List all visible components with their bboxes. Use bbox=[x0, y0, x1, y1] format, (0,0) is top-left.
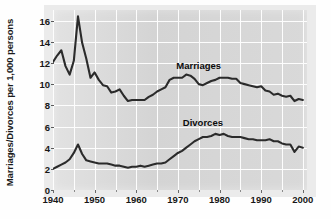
series-line-divorces bbox=[53, 134, 303, 169]
y-tick-mark bbox=[51, 148, 54, 149]
plot-area: MarriagesDivorces bbox=[53, 10, 307, 190]
series-line-marriages bbox=[53, 16, 303, 101]
x-tick-label: 2000 bbox=[283, 194, 323, 205]
x-tick-mark-minor bbox=[157, 190, 158, 192]
x-tick-mark bbox=[178, 190, 179, 193]
y-tick-label: 16 bbox=[30, 17, 50, 26]
x-tick-mark bbox=[303, 190, 304, 193]
y-tick-label: 10 bbox=[30, 80, 50, 89]
x-tick-mark bbox=[53, 190, 54, 193]
y-axis-title: Marriages/Divorces per 1,000 persons bbox=[2, 0, 18, 212]
x-tick-mark-minor bbox=[282, 190, 283, 192]
x-tick-mark bbox=[95, 190, 96, 193]
y-tick-mark bbox=[51, 42, 54, 43]
x-tick-mark-minor bbox=[74, 190, 75, 192]
y-tick-label: 6 bbox=[30, 123, 50, 132]
x-axis-tick-labels: 1940195019601970198019902000 bbox=[53, 194, 307, 208]
y-tick-mark bbox=[51, 127, 54, 128]
x-tick-label: 1940 bbox=[33, 194, 73, 205]
x-tick-mark-minor bbox=[116, 190, 117, 192]
y-tick-mark bbox=[51, 105, 54, 106]
y-tick-mark bbox=[51, 84, 54, 85]
y-tick-label: 12 bbox=[30, 59, 50, 68]
y-tick-label: 2 bbox=[30, 165, 50, 174]
x-tick-mark bbox=[220, 190, 221, 193]
x-tick-mark-minor bbox=[199, 190, 200, 192]
chart-figure: Marriages/Divorces per 1,000 persons 024… bbox=[0, 0, 331, 219]
series-annotation-marriages: Marriages bbox=[176, 60, 221, 71]
y-tick-label: 4 bbox=[30, 144, 50, 153]
x-tick-label: 1950 bbox=[75, 194, 115, 205]
y-axis-tick-labels: 0246810121416 bbox=[26, 10, 50, 190]
series-lines bbox=[53, 10, 307, 190]
x-tick-label: 1970 bbox=[158, 194, 198, 205]
x-tick-mark bbox=[261, 190, 262, 193]
series-annotation-divorces: Divorces bbox=[183, 117, 223, 128]
x-tick-mark-minor bbox=[240, 190, 241, 192]
y-tick-label: 14 bbox=[30, 38, 50, 47]
x-tick-label: 1980 bbox=[200, 194, 240, 205]
y-tick-mark bbox=[51, 169, 54, 170]
y-tick-mark bbox=[51, 21, 54, 22]
x-tick-mark bbox=[136, 190, 137, 193]
x-tick-label: 1960 bbox=[116, 194, 156, 205]
y-tick-label: 8 bbox=[30, 101, 50, 110]
y-tick-mark bbox=[51, 63, 54, 64]
x-tick-label: 1990 bbox=[241, 194, 281, 205]
